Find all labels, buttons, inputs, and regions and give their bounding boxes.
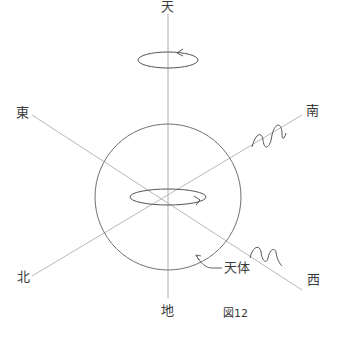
- label-east: 東: [16, 106, 29, 119]
- label-north: 北: [17, 270, 30, 283]
- figure-caption: 図12: [223, 308, 248, 319]
- celestial-sphere-diagram: [0, 0, 341, 339]
- body-leader-arrow-icon: [196, 255, 201, 260]
- wave-south-icon: [252, 125, 286, 147]
- label-top: 天: [161, 0, 174, 13]
- label-celestial-body: 天体: [224, 261, 250, 274]
- east-west-axis: [32, 115, 302, 290]
- label-bottom: 地: [161, 304, 174, 317]
- wave-west-icon: [250, 247, 282, 266]
- north-south-axis: [32, 115, 302, 276]
- center-rotation-arrow-icon: [194, 196, 200, 205]
- label-south: 南: [306, 104, 319, 117]
- label-west: 西: [307, 273, 320, 286]
